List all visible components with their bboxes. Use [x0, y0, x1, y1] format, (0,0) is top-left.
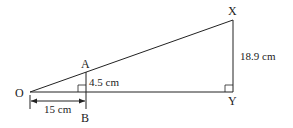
line-OX	[30, 20, 233, 92]
point-label-A: A	[81, 57, 90, 71]
point-label-Y: Y	[228, 94, 237, 108]
point-label-X: X	[228, 4, 237, 18]
point-label-O: O	[15, 86, 24, 100]
point-label-B: B	[81, 111, 89, 125]
arrowhead-left-icon	[31, 99, 37, 104]
right-angle-marker-B	[78, 85, 86, 92]
measurement-OB: 15 cm	[44, 103, 72, 115]
measurement-XY: 18.9 cm	[240, 50, 276, 62]
arrowhead-right-icon	[79, 99, 85, 104]
measurement-AB: 4.5 cm	[89, 76, 119, 88]
right-angle-marker-Y	[225, 85, 233, 92]
similar-triangles-diagram: O A B X Y 15 cm 4.5 cm 18.9 cm	[0, 0, 293, 128]
